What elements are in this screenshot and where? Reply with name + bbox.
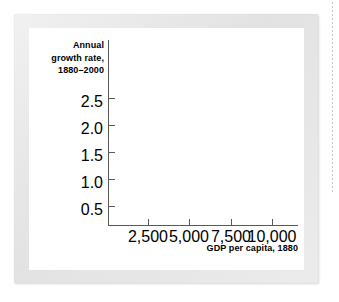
chart-plot: Annual growth rate, 1880–2000 2.5 2.0 1.… <box>0 0 339 302</box>
x-axis-title: GDP per capita, 1880 <box>150 243 298 253</box>
y-tick-mark <box>109 152 115 153</box>
y-tick-mark <box>109 206 115 207</box>
x-tick-mark <box>272 219 273 225</box>
x-tick-mark <box>148 219 149 225</box>
y-axis-line <box>108 40 109 226</box>
scanned-page: Annual growth rate, 1880–2000 2.5 2.0 1.… <box>0 0 339 302</box>
y-axis-title-line-1: Annual <box>24 39 104 52</box>
x-tick-mark <box>189 219 190 225</box>
y-tick-label: 0.5 <box>72 201 103 219</box>
x-tick-mark <box>231 219 232 225</box>
y-tick-label: 2.5 <box>72 93 103 111</box>
y-tick-label: 1.0 <box>72 174 103 192</box>
y-tick-label: 1.5 <box>72 147 103 165</box>
y-tick-mark <box>109 98 115 99</box>
y-tick-mark <box>109 125 115 126</box>
y-tick-label: 2.0 <box>72 120 103 138</box>
y-axis-title: Annual growth rate, 1880–2000 <box>24 39 104 77</box>
y-axis-title-line-2: growth rate, <box>24 52 104 65</box>
y-tick-mark <box>109 179 115 180</box>
x-axis-line <box>108 225 298 226</box>
y-axis-title-line-3: 1880–2000 <box>24 64 104 77</box>
